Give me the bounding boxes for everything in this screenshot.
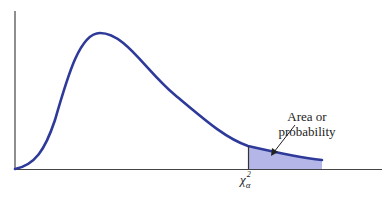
chi-square-diagram <box>0 0 389 198</box>
annotation-line-1: Area or <box>262 109 352 124</box>
area-annotation: Area or probability <box>262 109 352 139</box>
chi-superscript: 2 <box>247 170 251 179</box>
chi-subscript: α <box>246 180 251 190</box>
critical-value-label: χ2α <box>240 172 254 188</box>
density-curve <box>15 33 322 169</box>
annotation-line-2: probability <box>262 124 352 139</box>
